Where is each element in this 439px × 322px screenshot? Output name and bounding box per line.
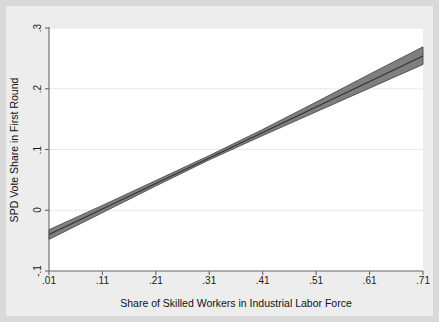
x-tick-label: .31 <box>202 276 216 286</box>
x-tick-label: .61 <box>363 276 377 286</box>
fit-line <box>49 56 423 235</box>
y-tick-label: -.1 <box>33 263 43 279</box>
y-tick-label: 0 <box>33 202 43 218</box>
tick-marks-group <box>45 28 423 275</box>
y-tick-label: .3 <box>33 20 43 36</box>
y-axis-title: SPD Vote Share in First Round <box>9 78 20 223</box>
chart-svg <box>0 0 439 322</box>
x-tick-label: .21 <box>149 276 163 286</box>
x-axis-title: Share of Skilled Workers in Industrial L… <box>120 298 352 309</box>
fitted-line <box>49 56 423 235</box>
x-tick-label: .51 <box>309 276 323 286</box>
x-tick-label: .11 <box>96 276 109 286</box>
y-tick-label: .1 <box>33 142 43 158</box>
gridlines-group <box>49 28 423 210</box>
figure-canvas: .01.11.21.31.41.51.61.71 -.10.1.2.3 Shar… <box>0 0 439 322</box>
x-tick-label: .41 <box>256 276 270 286</box>
y-tick-label: .2 <box>33 81 43 97</box>
x-tick-label: .01 <box>42 276 56 286</box>
x-tick-label: .71 <box>416 276 430 286</box>
